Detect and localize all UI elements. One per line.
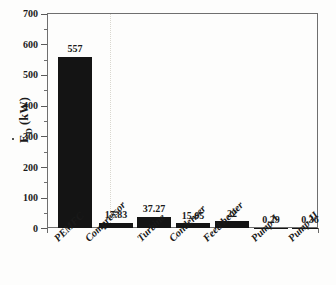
y-tick-label-0: 0 — [0, 224, 38, 234]
y-tick-label-600: 600 — [0, 40, 38, 50]
x-tick-7 — [318, 228, 319, 233]
y-tick-label-200: 200 — [0, 163, 38, 173]
page-edge — [0, 285, 336, 291]
bar-value-pemfc: 557 — [48, 44, 102, 54]
x-tick-0 — [47, 228, 48, 233]
y-tick-label-400: 400 — [0, 101, 38, 111]
y-tick-label-700: 700 — [0, 9, 38, 19]
y-tick-label-100: 100 — [0, 193, 38, 203]
y-tick-label-300: 300 — [0, 132, 38, 142]
y-tick-label-500: 500 — [0, 70, 38, 80]
bar-pemfc — [58, 57, 92, 228]
y-axis-unit-spacer — [17, 125, 31, 128]
bar-chart: ED (kW) 700 600 500 400 300 200 100 0 55… — [0, 0, 336, 291]
vertical-gridline — [110, 14, 111, 227]
